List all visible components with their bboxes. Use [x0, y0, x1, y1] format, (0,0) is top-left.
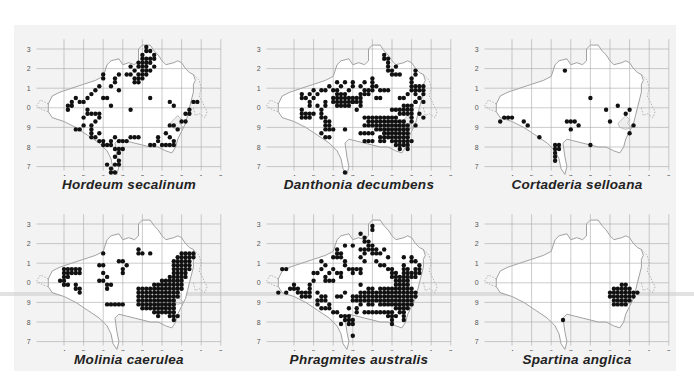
species-label: Phragmites australis — [244, 352, 474, 367]
record-dot — [160, 287, 164, 291]
record-dot — [413, 92, 417, 96]
record-dot — [355, 108, 359, 112]
record-dot — [284, 267, 288, 271]
record-dot — [378, 127, 382, 131]
record-dot — [168, 279, 172, 283]
record-dot — [323, 275, 327, 279]
record-dot — [406, 135, 410, 139]
x-tick-label: 7 — [351, 349, 355, 351]
record-dot — [417, 267, 421, 271]
record-dot — [144, 72, 148, 76]
record-dot — [409, 275, 413, 279]
record-dot — [132, 135, 136, 139]
record-dot — [378, 302, 382, 306]
record-dot — [148, 294, 152, 298]
record-dot — [406, 123, 410, 127]
record-dot — [172, 298, 176, 302]
distribution-map: 4567890123210987 — [14, 26, 244, 176]
x-tick-label: 8 — [370, 349, 374, 351]
record-dot — [89, 112, 93, 116]
record-dot — [390, 115, 394, 119]
record-dot — [160, 306, 164, 310]
record-dot — [172, 104, 176, 108]
record-dot — [413, 275, 417, 279]
x-tick-label: 5 — [530, 174, 534, 176]
record-dot — [382, 290, 386, 294]
record-dot — [343, 314, 347, 318]
x-tick-label: 2 — [667, 174, 671, 176]
record-dot — [136, 302, 140, 306]
record-dot — [378, 290, 382, 294]
record-dot — [378, 310, 382, 314]
record-dot — [362, 298, 366, 302]
record-dot — [62, 283, 66, 287]
record-dot — [164, 310, 168, 314]
record-dot — [402, 119, 406, 123]
record-dot — [413, 100, 417, 104]
record-dot — [358, 104, 362, 108]
record-dot — [421, 92, 425, 96]
record-dot — [370, 247, 374, 251]
record-dot — [156, 290, 160, 294]
y-tick-label: 2 — [257, 240, 261, 247]
record-dot — [351, 80, 355, 84]
record-dot — [386, 287, 390, 291]
record-dot — [152, 310, 156, 314]
record-dot — [97, 279, 101, 283]
y-tick-label: 0 — [257, 104, 261, 111]
record-dot — [409, 255, 413, 259]
record-dot — [351, 267, 355, 271]
record-dot — [358, 100, 362, 104]
record-dot — [382, 139, 386, 143]
record-dot — [132, 76, 136, 80]
record-dot — [300, 294, 304, 298]
record-dot — [374, 96, 378, 100]
record-dot — [179, 271, 183, 275]
record-dot — [386, 88, 390, 92]
distribution-map: 4567890123210987 — [14, 201, 244, 351]
record-dot — [176, 287, 180, 291]
record-dot — [327, 135, 331, 139]
record-dot — [300, 92, 304, 96]
record-dot — [390, 267, 394, 271]
record-dot — [526, 123, 530, 127]
record-dot — [74, 127, 78, 131]
record-dot — [140, 76, 144, 80]
record-dot — [386, 267, 390, 271]
record-dot — [300, 290, 304, 294]
record-dot — [168, 123, 172, 127]
record-dot — [187, 251, 191, 255]
record-dot — [616, 302, 620, 306]
record-dot — [308, 283, 312, 287]
record-dot — [402, 112, 406, 116]
record-dot — [183, 271, 187, 275]
record-dot — [374, 298, 378, 302]
species-label: Spartina anglica — [462, 352, 692, 367]
map-panel-danthonia-decumbens: 4567890123210987 Danthonia decumbens — [244, 26, 474, 206]
record-dot — [394, 298, 398, 302]
record-dot — [331, 267, 335, 271]
record-dot — [351, 322, 355, 326]
record-dot — [335, 255, 339, 259]
record-dot — [125, 139, 129, 143]
record-dot — [113, 302, 117, 306]
record-dot — [121, 139, 125, 143]
record-dot — [121, 147, 125, 151]
y-tick-label: 7 — [27, 338, 31, 345]
record-dot — [563, 68, 567, 72]
record-dot — [413, 259, 417, 263]
record-dot — [378, 139, 382, 143]
record-dot — [390, 271, 394, 275]
record-dot — [172, 279, 176, 283]
record-dot — [390, 123, 394, 127]
record-dot — [374, 247, 378, 251]
record-dot — [406, 108, 410, 112]
record-dot — [421, 88, 425, 92]
record-dot — [125, 72, 129, 76]
record-dot — [390, 108, 394, 112]
record-dot — [382, 247, 386, 251]
record-dot — [409, 80, 413, 84]
x-tick-label: 6 — [101, 174, 105, 176]
record-dot — [347, 318, 351, 322]
record-dot — [366, 302, 370, 306]
